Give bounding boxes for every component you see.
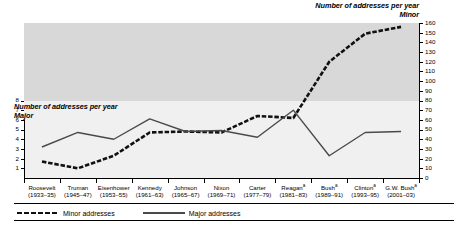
- bottom-axis-line: [24, 178, 420, 179]
- right-tick: [420, 52, 423, 53]
- category-name: Kennedy: [138, 184, 162, 191]
- category-years: (1953–55): [98, 191, 130, 198]
- right-tick-label: 20: [425, 156, 432, 162]
- category-years: (1933–35): [28, 191, 56, 198]
- category-label-nixon: Nixon(1969–71): [208, 184, 236, 198]
- right-tick-label: 160: [425, 20, 435, 26]
- left-axis-line: [24, 120, 25, 178]
- right-tick: [420, 33, 423, 34]
- right-tick-label: 130: [425, 49, 435, 55]
- category-years: (1989–91): [315, 191, 343, 198]
- right-tick-label: 0: [425, 175, 428, 181]
- category-name: G.W. Busha: [385, 184, 417, 191]
- bottom-tick: [347, 179, 348, 183]
- category-years: (2001–03): [385, 191, 417, 198]
- category-name: Carter: [249, 184, 266, 191]
- category-label-truman: Truman(1945–47): [64, 184, 92, 198]
- right-tick: [420, 81, 423, 82]
- right-tick: [420, 149, 423, 150]
- category-years: (1969–71): [208, 191, 236, 198]
- category-years: (1965–67): [172, 191, 200, 198]
- category-name: Nixon: [214, 184, 230, 191]
- right-tick-label: 110: [425, 68, 435, 74]
- left-tick-label: 2: [0, 156, 19, 162]
- right-tick: [420, 110, 423, 111]
- bottom-tick: [239, 179, 240, 183]
- right-tick: [420, 62, 423, 63]
- right-tick-label: 100: [425, 78, 435, 84]
- left-tick-label: 8: [0, 97, 19, 103]
- right-tick: [420, 71, 423, 72]
- right-tick: [420, 130, 423, 131]
- category-name: Busha: [321, 184, 337, 191]
- right-tick-label: 30: [425, 146, 432, 152]
- bottom-tick: [132, 179, 133, 183]
- category-years: (1977–79): [244, 191, 272, 198]
- bottom-tick: [419, 179, 420, 183]
- category-name: Reagana: [281, 184, 305, 191]
- chart-container: Number of addresses per year Minor Numbe…: [0, 0, 464, 228]
- right-tick-label: 10: [425, 165, 432, 171]
- major-axis-title: Number of addresses per year Major: [14, 103, 118, 120]
- right-tick-label: 60: [425, 117, 432, 123]
- right-tick: [420, 23, 423, 24]
- left-tick: [21, 130, 24, 131]
- bottom-tick: [204, 179, 205, 183]
- right-tick: [420, 91, 423, 92]
- legend-label-minor: Minor addresses: [63, 210, 115, 217]
- bottom-tick: [311, 179, 312, 183]
- footnote-marker: a: [335, 183, 338, 188]
- right-tick-label: 120: [425, 59, 435, 65]
- right-tick: [420, 42, 423, 43]
- right-tick-label: 40: [425, 136, 432, 142]
- right-tick-label: 90: [425, 88, 432, 94]
- category-name: Roosevelt: [28, 184, 55, 191]
- category-name: Eisenhower: [98, 184, 130, 191]
- category-label-g-w-bush: G.W. Busha(2001–03): [385, 184, 417, 198]
- bottom-tick: [96, 179, 97, 183]
- legend-divider-bottom: [14, 220, 454, 221]
- legend-divider-top: [14, 203, 454, 204]
- minor-axis-title-line1: Number of addresses per year: [315, 1, 419, 10]
- left-tick: [21, 139, 24, 140]
- chart-legend: Minor addresses Major addresses: [17, 206, 241, 220]
- major-axis-title-line2: Major: [14, 112, 118, 121]
- left-tick: [21, 110, 24, 111]
- category-label-kennedy: Kennedy(1961–63): [136, 184, 164, 198]
- left-tick-label: 4: [0, 136, 19, 142]
- bottom-tick: [275, 179, 276, 183]
- left-tick-label: 6: [0, 117, 19, 123]
- right-tick-label: 70: [425, 107, 432, 113]
- category-label-johnson: Johnson(1965–67): [172, 184, 200, 198]
- right-tick-label: 140: [425, 39, 435, 45]
- legend-entry-minor: Minor addresses: [17, 210, 115, 217]
- left-tick: [21, 120, 24, 121]
- category-label-clinton: Clintona(1993–95): [351, 184, 379, 198]
- legend-entry-major: Major addresses: [143, 210, 241, 217]
- dashed-line-icon: [17, 212, 59, 215]
- minor-axis-title: Number of addresses per year Minor: [315, 2, 419, 19]
- category-label-roosevelt: Roosevelt(1933–35): [28, 184, 56, 198]
- category-name: Johnson: [174, 184, 197, 191]
- right-tick: [420, 168, 423, 169]
- footnote-marker: a: [414, 183, 417, 188]
- solid-line-icon: [143, 212, 185, 214]
- right-tick: [420, 120, 423, 121]
- bottom-tick: [168, 179, 169, 183]
- left-tick: [21, 168, 24, 169]
- category-years: (1945–47): [64, 191, 92, 198]
- category-years: (1993–95): [351, 191, 379, 198]
- category-name: Truman: [67, 184, 88, 191]
- major-axis-title-line1: Number of addresses per year: [14, 102, 118, 111]
- bottom-tick: [24, 179, 25, 183]
- right-tick-label: 80: [425, 97, 432, 103]
- left-tick-label: 7: [0, 107, 19, 113]
- footnote-marker: a: [303, 183, 306, 188]
- category-label-reagan: Reagana(1981–83): [279, 184, 307, 198]
- left-tick-label: 3: [0, 146, 19, 152]
- category-label-eisenhower: Eisenhower(1953–55): [98, 184, 130, 198]
- left-tick: [21, 101, 24, 102]
- category-label-carter: Carter(1977–79): [244, 184, 272, 198]
- footnote-marker: a: [373, 183, 376, 188]
- bottom-tick: [383, 179, 384, 183]
